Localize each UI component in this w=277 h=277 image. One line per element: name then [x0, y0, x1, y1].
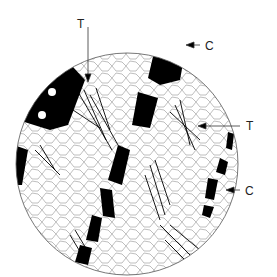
micrograph-figure: T C T C	[0, 0, 277, 277]
micrograph-drawing	[0, 0, 277, 277]
label-c-right: C	[245, 185, 254, 197]
label-c-top: C	[205, 40, 214, 52]
label-t-right: T	[246, 120, 253, 132]
label-t-top: T	[77, 18, 84, 30]
